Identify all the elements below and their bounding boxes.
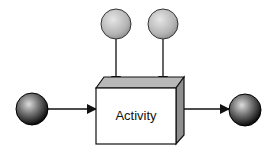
- resource-2-sphere-icon: [148, 9, 178, 39]
- activity-diagram: Activity: [0, 0, 277, 154]
- resource-1-sphere-icon: [101, 9, 131, 39]
- input-sphere-icon: [16, 93, 48, 125]
- output-sphere-icon: [229, 94, 261, 126]
- activity-label: Activity: [115, 108, 157, 123]
- activity-box-side: [176, 77, 184, 144]
- activity-box[interactable]: Activity: [96, 77, 184, 144]
- activity-box-top: [96, 77, 184, 88]
